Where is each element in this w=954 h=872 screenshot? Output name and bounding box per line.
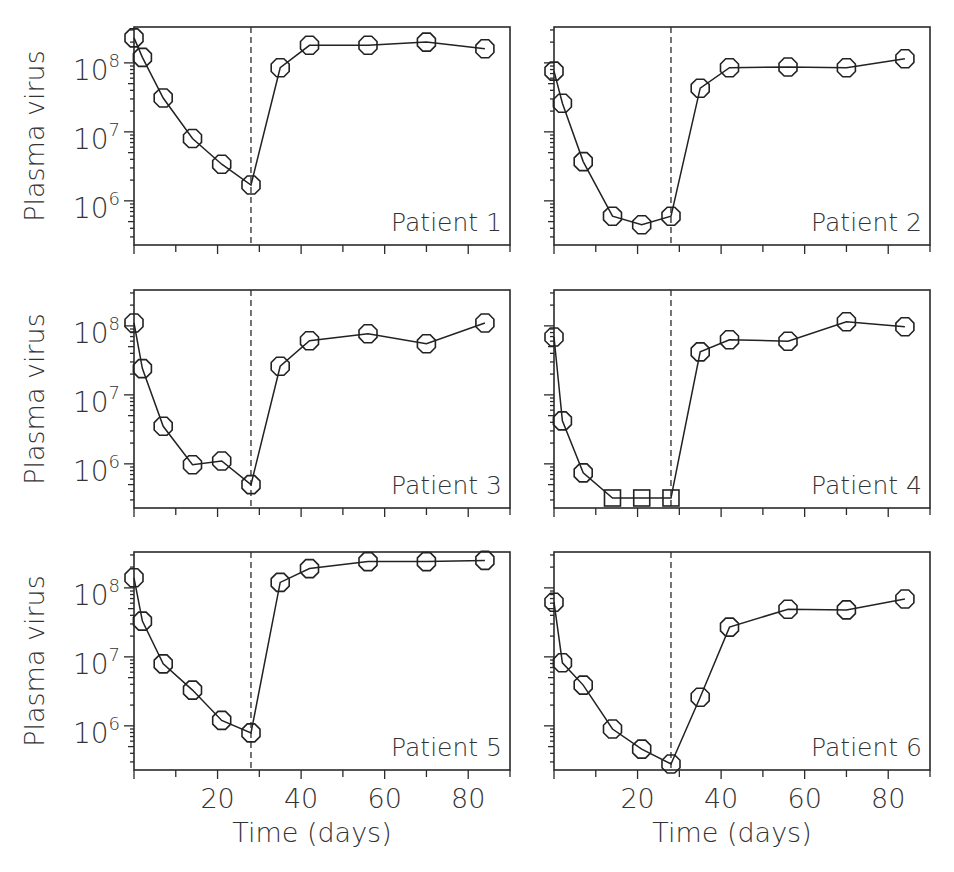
octagon-marker: [574, 153, 592, 171]
octagon-marker: [553, 94, 571, 112]
octagon-marker: [359, 325, 377, 343]
y-tick-label: 107: [73, 382, 120, 419]
octagon-marker: [242, 476, 260, 494]
y-tick-label: 107: [73, 119, 120, 156]
octagon-marker: [213, 155, 231, 173]
octagon-marker: [125, 29, 143, 47]
octagon-marker: [242, 176, 260, 194]
octagon-marker: [691, 79, 709, 97]
panel-3: 106107108Plasma virusPatient 3: [19, 290, 510, 517]
octagon-marker: [154, 655, 172, 673]
y-tick-label: 106: [73, 188, 120, 225]
octagon-marker: [154, 417, 172, 435]
x-tick-label: 20: [620, 783, 654, 814]
y-tick-label: 108: [73, 575, 120, 612]
patient-label: Patient 1: [391, 208, 502, 237]
octagon-marker: [837, 313, 855, 331]
octagon-marker: [633, 740, 651, 758]
octagon-marker: [837, 59, 855, 77]
octagon-marker: [271, 357, 289, 375]
octagon-marker: [553, 654, 571, 672]
y-tick-label: 106: [73, 713, 120, 750]
octagon-marker: [184, 456, 202, 474]
octagon-marker: [184, 130, 202, 148]
octagon-marker: [271, 573, 289, 591]
octagon-marker: [837, 601, 855, 619]
octagon-marker: [779, 600, 797, 618]
square-marker: [604, 490, 620, 506]
x-tick-label: 40: [704, 783, 738, 814]
panel-1: 106107108Plasma virusPatient 1: [19, 27, 510, 254]
octagon-marker: [779, 332, 797, 350]
patient-label: Patient 4: [811, 471, 922, 500]
octagon-marker: [125, 569, 143, 587]
octagon-marker: [476, 314, 494, 332]
octagon-marker: [779, 58, 797, 76]
octagon-marker: [476, 40, 494, 58]
octagon-marker: [574, 676, 592, 694]
figure-canvas: 106107108Plasma virusPatient 1Patient 21…: [0, 0, 954, 872]
square-marker: [634, 490, 650, 506]
octagon-marker: [359, 36, 377, 54]
octagon-marker: [604, 207, 622, 225]
octagon-marker: [574, 464, 592, 482]
square-marker: [663, 490, 679, 506]
octagon-marker: [242, 724, 260, 742]
octagon-marker: [721, 59, 739, 77]
x-tick-label: 80: [871, 783, 905, 814]
octagon-marker: [213, 452, 231, 470]
octagon-marker: [301, 36, 319, 54]
x-tick-label: 40: [284, 783, 318, 814]
y-tick-label: 107: [73, 644, 120, 681]
data-line: [134, 560, 485, 733]
octagon-marker: [691, 688, 709, 706]
octagon-marker: [896, 50, 914, 68]
octagon-marker: [133, 48, 151, 66]
octagon-marker: [721, 331, 739, 349]
patient-label: Patient 3: [391, 471, 502, 500]
octagon-marker: [662, 207, 680, 225]
octagon-marker: [417, 33, 435, 51]
octagon-marker: [633, 216, 651, 234]
panel-2: Patient 2: [544, 27, 930, 254]
y-axis-title: Plasma virus: [19, 313, 50, 485]
data-line: [554, 59, 905, 225]
octagon-marker: [476, 551, 494, 569]
octagon-marker: [545, 328, 563, 346]
octagon-marker: [359, 553, 377, 571]
patient-label: Patient 5: [391, 733, 502, 762]
octagon-marker: [301, 332, 319, 350]
octagon-marker: [896, 590, 914, 608]
y-tick-label: 108: [73, 50, 120, 87]
octagon-marker: [721, 618, 739, 636]
octagon-marker: [553, 412, 571, 430]
y-axis-title: Plasma virus: [19, 575, 50, 747]
panel-4: Patient 4: [544, 290, 930, 517]
y-tick-label: 108: [73, 313, 120, 350]
octagon-marker: [213, 711, 231, 729]
octagon-marker: [662, 755, 680, 773]
octagon-marker: [301, 560, 319, 578]
y-axis-title: Plasma virus: [19, 50, 50, 222]
y-tick-label: 106: [73, 451, 120, 488]
patient-label: Patient 2: [811, 208, 922, 237]
x-tick-label: 60: [787, 783, 821, 814]
octagon-marker: [154, 89, 172, 107]
patient-label: Patient 6: [811, 733, 922, 762]
octagon-marker: [896, 318, 914, 336]
octagon-marker: [417, 553, 435, 571]
octagon-marker: [184, 681, 202, 699]
octagon-marker: [125, 314, 143, 332]
octagon-marker: [271, 59, 289, 77]
x-tick-label: 20: [200, 783, 234, 814]
panel-5: 106107108Plasma virusPatient 520406080Ti…: [19, 551, 510, 848]
octagon-marker: [545, 62, 563, 80]
panel-6: Patient 620406080Time (days): [544, 552, 930, 848]
x-axis-title: Time (days): [652, 817, 811, 848]
x-axis-title: Time (days): [232, 817, 391, 848]
x-tick-label: 60: [367, 783, 401, 814]
octagon-marker: [691, 343, 709, 361]
octagon-marker: [133, 360, 151, 378]
octagon-marker: [133, 612, 151, 630]
octagon-marker: [417, 335, 435, 353]
